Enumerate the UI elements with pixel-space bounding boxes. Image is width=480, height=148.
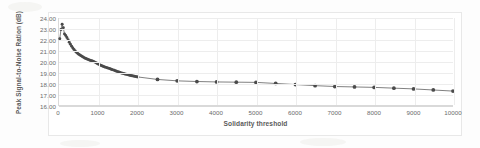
x-axis-tick-label: 1000	[90, 109, 104, 116]
gridline-vertical	[296, 18, 297, 105]
data-point-marker	[61, 23, 64, 26]
chart-figure: Peak Signal-to-Noise Ration (dB) 16.0017…	[0, 0, 480, 148]
x-axis-tick-label: 0	[56, 109, 60, 116]
y-axis-title-label: Peak Signal-to-Noise Ration (dB)	[15, 11, 22, 114]
y-axis-tick-labels: 16.0017.0018.0019.0020.0021.0022.0023.00…	[22, 18, 56, 106]
x-axis-tick-label: 6000	[288, 109, 302, 116]
x-axis-tick-label: 9000	[406, 109, 420, 116]
x-axis-tick-label: 8000	[367, 109, 381, 116]
x-axis-title: Solidarity threshold	[58, 120, 453, 127]
gridline-vertical	[375, 18, 376, 105]
x-axis-tick-label: 7000	[327, 109, 341, 116]
data-point-marker	[353, 85, 357, 89]
gridline-vertical	[336, 18, 337, 105]
plot-area	[58, 18, 453, 106]
x-axis-tick-label: 5000	[248, 109, 262, 116]
gridline-vertical	[99, 18, 100, 105]
data-point-marker	[431, 88, 435, 92]
data-point-marker	[392, 86, 396, 90]
x-axis-tick-label: 10000	[444, 109, 462, 116]
y-axis-tick-label: 20.00	[40, 59, 56, 66]
scan-smudge	[8, 2, 42, 12]
y-axis-tick-label: 18.00	[40, 81, 56, 88]
gridline-vertical	[178, 18, 179, 105]
gridline-vertical	[217, 18, 218, 105]
gridline-vertical	[415, 18, 416, 105]
scan-smudge	[300, 138, 346, 146]
y-axis-tick-label: 21.00	[40, 48, 56, 55]
x-axis-tick-labels: 0100020003000400050006000700080009000100…	[58, 109, 453, 119]
gridline-horizontal	[59, 106, 453, 107]
y-axis-tick-label: 24.00	[40, 15, 56, 22]
gridline-vertical	[138, 18, 139, 105]
y-axis-tick-label: 17.00	[40, 92, 56, 99]
y-axis-tick-label: 16.00	[40, 103, 56, 110]
scan-smudge	[60, 140, 100, 147]
x-axis-tick-label: 4000	[209, 109, 223, 116]
gridline-vertical	[257, 18, 258, 105]
data-point-marker	[156, 78, 160, 82]
y-axis-tick-label: 23.00	[40, 26, 56, 33]
y-axis-tick-label: 22.00	[40, 37, 56, 44]
x-axis-tick-label: 2000	[130, 109, 144, 116]
data-point-marker	[195, 80, 199, 84]
x-axis-tick-label: 3000	[169, 109, 183, 116]
gridline-vertical	[454, 18, 455, 105]
y-axis-tick-label: 19.00	[40, 70, 56, 77]
